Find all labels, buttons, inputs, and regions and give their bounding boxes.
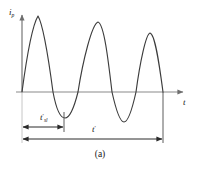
figure-canvas bbox=[0, 0, 200, 171]
damped-sine-curve bbox=[22, 16, 163, 122]
interval-label-short: t′sl bbox=[40, 113, 48, 122]
x-axis-label: t bbox=[183, 98, 186, 107]
axis-group bbox=[16, 15, 183, 92]
interval-long-prime: ′ bbox=[95, 124, 96, 131]
interval-short-sub: sl bbox=[44, 117, 48, 123]
x-axis-label-main: t bbox=[183, 97, 186, 107]
y-axis-label: ip bbox=[9, 8, 14, 17]
interval-label-long: t′ bbox=[92, 125, 96, 134]
figure-damped-oscillation: ip t t′sl t′ (a) bbox=[0, 0, 200, 171]
figure-caption: (a) bbox=[0, 150, 200, 160]
y-axis-label-sub: p bbox=[12, 12, 15, 18]
